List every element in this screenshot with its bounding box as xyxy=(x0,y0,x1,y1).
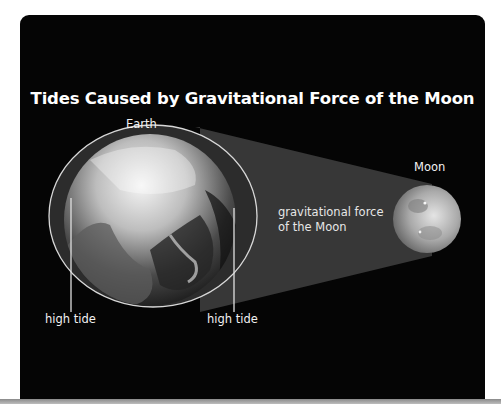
moon-globe xyxy=(393,185,461,253)
moon-label: Moon xyxy=(414,160,445,174)
force-label-line-2: of the Moon xyxy=(278,220,384,235)
gravitational-force-label: gravitational force of the Moon xyxy=(278,205,384,235)
force-label-line-1: gravitational force xyxy=(278,205,384,220)
bottom-divider xyxy=(0,399,501,404)
high-tide-left-label: high tide xyxy=(45,312,96,326)
earth-label: Earth xyxy=(126,117,157,131)
earth-globe xyxy=(64,134,236,306)
diagram-title: Tides Caused by Gravitational Force of t… xyxy=(20,89,485,108)
tides-illustration xyxy=(0,0,501,404)
high-tide-right-label: high tide xyxy=(207,312,258,326)
